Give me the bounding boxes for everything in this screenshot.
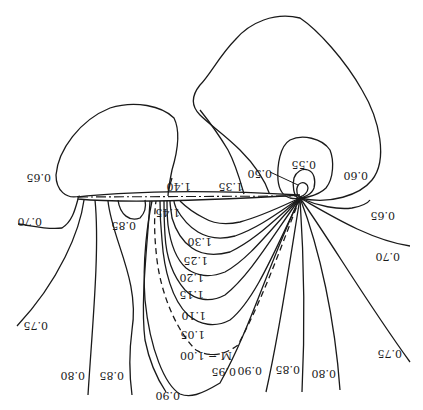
contour-0-85-right — [300, 198, 304, 392]
label-0-65-right: 0.65 — [371, 209, 396, 222]
label-1-45: 1.45 — [156, 206, 181, 219]
label-0-80-left: 0.80 — [61, 369, 86, 382]
label-0-80-right: 0.80 — [312, 367, 337, 380]
contour-0-90-right — [266, 198, 300, 392]
contour-0-80-left — [88, 200, 97, 395]
label-1-40: 1.40 — [167, 180, 192, 193]
label-0-90-left: 0.90 — [156, 389, 181, 402]
label-0-85-top: 0.85 — [112, 219, 137, 232]
contour-0-65-left — [56, 104, 178, 197]
label-0-60: 0.60 — [344, 169, 369, 182]
label-1-05: 1.05 — [181, 328, 206, 341]
label-0-85-left: 0.85 — [100, 369, 125, 382]
label-0-55: 0.55 — [292, 158, 317, 171]
label-1-00: M = 1.00 — [180, 349, 232, 362]
mach-contour-diagram: 0.65 1.40 1.35 1.45 0.50 0.55 0.60 0.65 … — [0, 0, 423, 410]
label-1-30: 1.30 — [188, 235, 213, 248]
label-0-75-left: 0.75 — [24, 319, 49, 332]
label-1-20: 1.20 — [180, 271, 205, 284]
label-1-25: 1.25 — [184, 254, 209, 267]
label-0-90-right: 0.90 — [238, 364, 263, 377]
label-0-70-left: 0.70 — [18, 215, 43, 228]
label-1-35: 1.35 — [219, 180, 244, 193]
label-0-70-right: 0.70 — [376, 250, 401, 263]
label-1-10: 1.10 — [182, 309, 207, 322]
label-0-75-right: 0.75 — [378, 347, 403, 360]
label-0-85-right: 0.85 — [276, 363, 301, 376]
label-1-15: 1.15 — [180, 288, 205, 301]
label-0-50: 0.50 — [248, 167, 273, 180]
contour-0-85-top — [118, 200, 145, 219]
label-0-65-left: 0.65 — [27, 171, 52, 184]
label-0-95: 0.95 — [212, 365, 237, 378]
